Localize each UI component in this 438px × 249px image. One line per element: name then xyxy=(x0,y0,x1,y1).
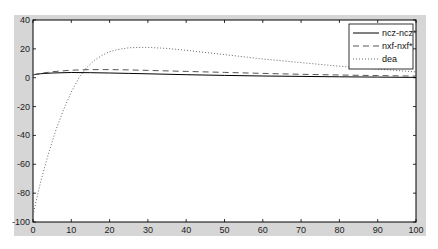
x-tick-label: 0 xyxy=(30,225,35,235)
y-tick-label: 20 xyxy=(20,44,30,54)
x-tick-label: 10 xyxy=(66,225,76,235)
y-tick-label: -20 xyxy=(17,102,30,112)
y-tick-label: -80 xyxy=(17,188,30,198)
x-tick-label: 50 xyxy=(219,225,229,235)
legend-label-ncz: ncz-ncz* xyxy=(382,28,417,38)
x-tick-label: 40 xyxy=(181,225,191,235)
x-tick-label: 30 xyxy=(143,225,153,235)
legend-label-dea: dea xyxy=(382,54,397,64)
legend-label-nxf: nxf-nxf* xyxy=(382,41,413,51)
legend: ncz-ncz* nxf-nxf* dea xyxy=(349,24,417,69)
x-tick-label: 80 xyxy=(334,225,344,235)
y-tick-label: 0 xyxy=(25,73,30,83)
x-tick-label: 90 xyxy=(373,225,383,235)
line-chart: 010203040506070809010040200-20-40-60-80-… xyxy=(0,0,438,249)
x-tick-label: 60 xyxy=(258,225,268,235)
y-tick-label: -100 xyxy=(12,217,30,227)
x-tick-label: 70 xyxy=(296,225,306,235)
y-tick-label: -40 xyxy=(17,130,30,140)
y-tick-label: -60 xyxy=(17,159,30,169)
y-tick-label: 40 xyxy=(20,15,30,25)
x-tick-label: 100 xyxy=(408,225,423,235)
x-tick-label: 20 xyxy=(105,225,115,235)
